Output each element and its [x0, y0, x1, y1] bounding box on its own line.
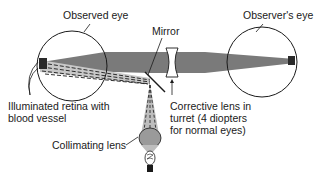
label-corrective-1: Corrective lens in [170, 100, 251, 112]
lamp-base [147, 165, 153, 172]
label-retina-2: blood vessel [8, 112, 66, 124]
label-observed-eye: Observed eye [63, 9, 128, 21]
label-retina-1: Illuminated retina with [8, 100, 110, 112]
label-mirror: Mirror [152, 25, 179, 37]
retina-spot-icon [39, 58, 47, 69]
label-observers-eye: Observer's eye [243, 9, 313, 21]
label-collimating-lens: Collimating lens [52, 139, 126, 151]
observer-retina-icon [288, 56, 295, 65]
label-corrective-3: for normal eyes) [170, 124, 246, 136]
label-corrective-2: turret (4 diopters [170, 112, 247, 124]
